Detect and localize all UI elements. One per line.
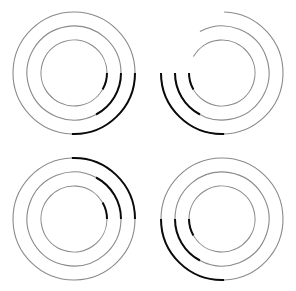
figure-bottom-right-ring-0-light-arc (189, 186, 255, 252)
figure-top-right (148, 0, 296, 146)
figure-top-right-ring-2-dark-arc (161, 73, 224, 134)
figure-top-right-ring-2 (161, 12, 283, 134)
figure-bottom-right-ring-2-dark-arc (161, 219, 224, 280)
figure-bottom-left-ring-0 (41, 185, 107, 251)
figure-top-left-ring-0-dark-arc (103, 73, 107, 90)
figure-bottom-left (0, 146, 148, 291)
figure-bottom-right-canvas (148, 146, 296, 291)
figure-top-left-ring-0 (41, 40, 107, 106)
figure-top-left-ring-0-light-arc (41, 40, 107, 106)
figure-bottom-left-canvas (0, 146, 148, 291)
figure-top-right-ring-0 (189, 40, 255, 106)
figure-grid (0, 0, 295, 291)
figure-bottom-left-ring-2-dark-arc (72, 157, 135, 218)
figure-bottom-left-ring-0-light-arc (41, 185, 107, 251)
figure-top-left-ring-2-dark-arc (72, 73, 135, 134)
figure-bottom-left-ring-2 (13, 157, 135, 279)
figure-top-right-ring-0-dark-arc (189, 73, 193, 90)
figure-bottom-right-ring-0-dark-arc (189, 219, 193, 236)
figure-bottom-left-ring-0-dark-arc (103, 202, 107, 219)
figure-bottom-right-ring-0 (189, 186, 255, 252)
figure-bottom-right (148, 146, 296, 291)
figure-top-right-canvas (148, 0, 296, 146)
figure-top-left (0, 0, 148, 146)
figure-bottom-right-ring-2 (161, 158, 283, 280)
figure-top-right-ring-0-light-arc (189, 40, 255, 106)
figure-top-left-ring-2 (13, 12, 135, 134)
figure-top-left-canvas (0, 0, 148, 146)
